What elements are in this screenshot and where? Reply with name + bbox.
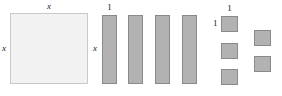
x-tile	[102, 15, 117, 84]
unit-tile-top-label: 1	[221, 4, 238, 13]
x-tile-left-label: x	[93, 44, 97, 53]
x-squared-left-label: x	[2, 44, 6, 53]
algebra-tiles-figure: x x 1 x 1 1	[0, 0, 282, 96]
x-squared-tile	[10, 13, 88, 84]
unit-tile	[221, 69, 238, 85]
unit-tile-left-label: 1	[213, 19, 218, 28]
x-tile	[155, 15, 170, 84]
x-tile	[128, 15, 143, 84]
unit-tile	[254, 56, 271, 72]
x-tile	[182, 15, 197, 84]
unit-tile	[221, 16, 238, 32]
x-squared-top-label: x	[10, 2, 88, 11]
unit-tile	[221, 43, 238, 59]
unit-tile	[254, 30, 271, 46]
x-tile-top-label: 1	[102, 3, 117, 12]
